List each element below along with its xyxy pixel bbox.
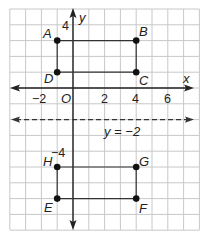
y-tick-neg4: −4	[51, 146, 65, 160]
point-d	[54, 69, 61, 76]
y-tick-4: 4	[62, 19, 69, 33]
label-c: C	[139, 73, 149, 88]
x-tick-4: 4	[132, 92, 139, 106]
x-tick-neg2: −2	[32, 92, 46, 106]
label-a: A	[42, 26, 52, 41]
y-axis-label: y	[78, 10, 87, 25]
point-a	[54, 37, 61, 44]
label-e: E	[44, 200, 53, 215]
coordinate-plane: A B C D H G F E x y O −2 2 4 6 4 −4 y = …	[0, 0, 210, 239]
label-d: D	[44, 71, 53, 86]
x-axis	[10, 85, 194, 92]
origin-label: O	[61, 91, 71, 106]
label-f: F	[139, 201, 148, 216]
x-tick-2: 2	[101, 92, 108, 106]
label-g: G	[139, 154, 149, 169]
point-e	[54, 195, 61, 202]
x-axis-label: x	[182, 71, 190, 86]
x-tick-6: 6	[164, 92, 171, 106]
point-h	[54, 164, 61, 171]
reflection-line-label: y = −2	[103, 124, 141, 139]
label-b: B	[139, 24, 148, 39]
